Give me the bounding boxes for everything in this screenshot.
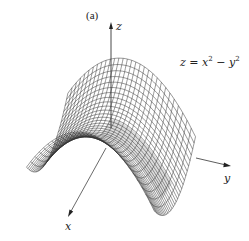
- z-axis-label: z: [116, 21, 122, 32]
- saddle-surface-plot: [0, 0, 249, 241]
- equation-term2-exponent: 2: [235, 55, 239, 63]
- x-axis: [70, 148, 106, 213]
- y-axis-label: y: [224, 173, 230, 184]
- x-axis-label: x: [65, 221, 71, 232]
- z-axis-arrowhead-icon: [109, 22, 113, 29]
- saddle-surface-figure: (a) z x y z = x2 − y2: [0, 0, 249, 241]
- y-axis: [196, 158, 226, 165]
- x-axis-arrowhead-icon: [68, 210, 73, 218]
- panel-label: (a): [86, 10, 98, 21]
- coordinate-axes: [68, 22, 231, 217]
- surface-equation-label: z = x2 − y2: [180, 56, 240, 68]
- equation-equals: =: [186, 56, 202, 69]
- y-axis-arrowhead-icon: [223, 163, 231, 168]
- equation-minus: −: [213, 56, 229, 69]
